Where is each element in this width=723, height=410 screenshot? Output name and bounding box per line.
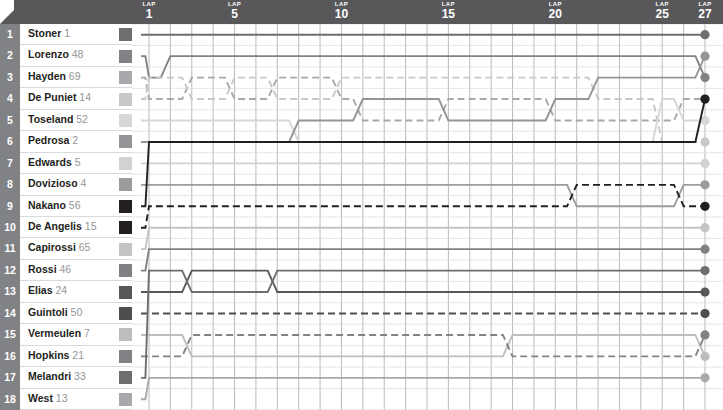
series-edwards xyxy=(141,159,710,168)
rider-row[interactable]: De Angelis 15 xyxy=(20,217,132,238)
finish-dot[interactable] xyxy=(700,159,709,168)
header-bar xyxy=(14,0,723,24)
position-number: 1 xyxy=(0,24,20,45)
rider-name: Guintoli xyxy=(28,306,68,318)
series-de-puniet xyxy=(141,78,710,147)
rider-number: 2 xyxy=(72,134,78,146)
rider-row[interactable]: Guintoli 50 xyxy=(20,303,132,324)
finish-dot[interactable] xyxy=(700,137,709,146)
rider-name: Capirossi xyxy=(28,241,76,253)
race-position-chart: LAP1LAP5LAP10LAP15LAP20LAP25LAP27 123456… xyxy=(0,0,723,410)
rider-number: 15 xyxy=(85,220,97,232)
rider-label: Elias 24 xyxy=(28,284,67,296)
rider-row[interactable]: Elias 24 xyxy=(20,281,132,302)
rider-name: De Puniet xyxy=(28,91,76,103)
rider-number: 4 xyxy=(81,177,87,189)
lap-mark-1: LAP1 xyxy=(142,1,155,20)
rider-row[interactable]: Melandri 33 xyxy=(20,367,132,388)
rider-label: Capirossi 65 xyxy=(28,241,90,253)
rider-color-swatch xyxy=(119,135,132,148)
rider-name: Rossi xyxy=(28,263,57,275)
rider-color-swatch xyxy=(119,28,132,41)
finish-dot[interactable] xyxy=(700,352,709,361)
rider-name: Nakano xyxy=(28,199,66,211)
rider-name: Lorenzo xyxy=(28,48,69,60)
rider-row[interactable]: Stoner 1 xyxy=(20,24,132,45)
rider-name: Hopkins xyxy=(28,349,69,361)
rider-row[interactable]: Dovizioso 4 xyxy=(20,174,132,195)
series-rossi xyxy=(141,245,710,271)
finish-dot[interactable] xyxy=(700,330,709,339)
rider-row[interactable]: Hayden 69 xyxy=(20,67,132,88)
rider-row[interactable]: Nakano 56 xyxy=(20,196,132,217)
rider-label: Vermeulen 7 xyxy=(28,327,90,339)
rider-label: Pedrosa 2 xyxy=(28,134,78,146)
rider-name: Dovizioso xyxy=(28,177,78,189)
finish-dot[interactable] xyxy=(700,30,709,39)
lap-mark-20: LAP20 xyxy=(549,1,562,20)
rider-color-swatch xyxy=(119,243,132,256)
position-number: 8 xyxy=(0,174,20,195)
rider-label: Hopkins 21 xyxy=(28,349,84,361)
rider-label: De Puniet 14 xyxy=(28,91,91,103)
rider-row[interactable]: Edwards 5 xyxy=(20,153,132,174)
rider-name: Toseland xyxy=(28,113,73,125)
position-number: 14 xyxy=(0,303,20,324)
finish-dot[interactable] xyxy=(700,309,709,318)
finish-dot[interactable] xyxy=(700,94,709,103)
finish-dot[interactable] xyxy=(700,245,709,254)
rider-row[interactable]: Vermeulen 7 xyxy=(20,324,132,345)
finish-dot[interactable] xyxy=(700,287,709,296)
lap-number: 25 xyxy=(656,8,669,20)
rider-number: 56 xyxy=(69,199,81,211)
rider-number: 1 xyxy=(64,27,70,39)
position-number: 13 xyxy=(0,281,20,302)
finish-dot[interactable] xyxy=(700,223,709,232)
position-number: 10 xyxy=(0,217,20,238)
rider-row[interactable]: Toseland 52 xyxy=(20,110,132,131)
rider-color-swatch xyxy=(119,264,132,277)
rider-name: De Angelis xyxy=(28,220,82,232)
rider-row[interactable]: West 13 xyxy=(20,389,132,410)
rider-row[interactable]: Hopkins 21 xyxy=(20,346,132,367)
rider-color-swatch xyxy=(119,350,132,363)
rider-number: 50 xyxy=(71,306,83,318)
series-nakano xyxy=(141,94,710,206)
rider-label: Edwards 5 xyxy=(28,156,81,168)
lap-mark-15: LAP15 xyxy=(442,1,455,20)
lap-number: 15 xyxy=(442,8,455,20)
rider-number: 14 xyxy=(79,91,91,103)
finish-dot[interactable] xyxy=(700,202,709,211)
rider-number: 5 xyxy=(75,156,81,168)
series-pedrosa xyxy=(141,52,710,142)
rider-row[interactable]: Pedrosa 2 xyxy=(20,131,132,152)
rider-label: Stoner 1 xyxy=(28,27,70,39)
grid-lines xyxy=(132,24,723,410)
rider-label: Nakano 56 xyxy=(28,199,81,211)
rider-row[interactable]: Rossi 46 xyxy=(20,260,132,281)
rider-color-swatch xyxy=(119,114,132,127)
finish-dot[interactable] xyxy=(700,373,709,382)
finish-dot[interactable] xyxy=(700,180,709,189)
finish-dot[interactable] xyxy=(700,73,709,82)
rider-color-swatch xyxy=(119,200,132,213)
rider-label: Lorenzo 48 xyxy=(28,48,83,60)
rider-name: West xyxy=(28,392,53,404)
rider-row[interactable]: Lorenzo 48 xyxy=(20,45,132,66)
finish-dot[interactable] xyxy=(700,52,709,61)
rider-name: Hayden xyxy=(28,70,66,82)
rider-name: Melandri xyxy=(28,370,71,382)
rider-color-swatch xyxy=(119,178,132,191)
finish-dot[interactable] xyxy=(700,266,709,275)
rider-color-swatch xyxy=(119,393,132,406)
position-lines-svg xyxy=(132,24,723,410)
series-west xyxy=(141,373,710,399)
rider-label: De Angelis 15 xyxy=(28,220,96,232)
rider-name: Elias xyxy=(28,284,53,296)
rider-color-swatch xyxy=(119,50,132,63)
rider-name: Vermeulen xyxy=(28,327,81,339)
rider-row[interactable]: Capirossi 65 xyxy=(20,238,132,259)
position-number: 16 xyxy=(0,346,20,367)
rider-row[interactable]: De Puniet 14 xyxy=(20,88,132,109)
position-number: 9 xyxy=(0,196,20,217)
